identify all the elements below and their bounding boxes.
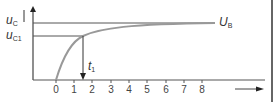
y-axis-arrow-icon: [30, 6, 36, 12]
x-tick-label: 0: [51, 84, 61, 95]
x-tick-label: 5: [142, 84, 152, 95]
x-tick-label: 2: [87, 84, 97, 95]
t1-label: t1: [88, 61, 95, 75]
t1-arrow-icon: [80, 73, 86, 80]
uc1-label: uC1: [6, 30, 22, 44]
ub-label: UB: [219, 17, 232, 31]
x-arrow-icon: [256, 87, 264, 92]
x-tick-label: 4: [124, 84, 134, 95]
x-tick-label: 1: [69, 84, 79, 95]
diagram-canvas: [0, 0, 276, 102]
charging-curve: [56, 23, 215, 80]
x-tick-label: 6: [161, 84, 171, 95]
x-tick-label: 3: [106, 84, 116, 95]
x-tick-label: 7: [179, 84, 189, 95]
x-tick-label: 8: [197, 84, 207, 95]
uc-label: uC: [6, 15, 18, 29]
